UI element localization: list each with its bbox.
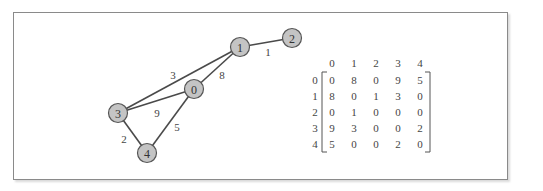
matrix-row-header: 2	[312, 106, 318, 118]
adjacency-matrix: 01234008095180130201000393002450020	[312, 57, 430, 152]
matrix-cell: 0	[373, 122, 379, 134]
matrix-cell: 0	[417, 90, 423, 102]
matrix-cell: 0	[373, 74, 379, 86]
matrix-row-header: 4	[312, 138, 318, 150]
matrix-cell: 0	[329, 106, 335, 118]
matrix-cell: 0	[373, 106, 379, 118]
matrix-cell: 5	[417, 74, 423, 86]
node-label: 3	[115, 107, 121, 121]
matrix-cell: 3	[395, 90, 401, 102]
matrix-column-header: 2	[373, 57, 379, 69]
edge-weight-label: 5	[174, 121, 180, 133]
matrix-column-header: 4	[417, 57, 423, 69]
matrix-cell: 0	[329, 74, 335, 86]
matrix-row-header: 1	[312, 90, 318, 102]
matrix-cell: 9	[395, 74, 401, 86]
edge-0-4	[147, 89, 194, 153]
matrix-cell: 0	[351, 138, 357, 150]
matrix-cell: 1	[373, 90, 379, 102]
matrix-cell: 0	[417, 106, 423, 118]
matrix-column-header: 0	[329, 57, 335, 69]
matrix-column-header: 1	[351, 57, 357, 69]
matrix-cell: 9	[329, 122, 335, 134]
edge-weight-label: 2	[121, 133, 127, 145]
matrix-cell: 0	[395, 122, 401, 134]
graph-nodes: 01234	[109, 29, 302, 163]
graph-node-4: 4	[138, 144, 157, 163]
graph-node-0: 0	[185, 80, 204, 99]
graph-node-1: 1	[231, 38, 250, 57]
matrix-cell: 5	[329, 138, 335, 150]
graph-node-2: 2	[283, 29, 302, 48]
edge-weight-label: 1	[265, 46, 271, 58]
graph-node-3: 3	[109, 104, 128, 123]
matrix-cell: 0	[373, 138, 379, 150]
node-label: 1	[237, 41, 243, 55]
matrix-cell: 1	[351, 106, 357, 118]
matrix-cell: 0	[417, 138, 423, 150]
matrix-cell: 8	[329, 90, 335, 102]
graph-and-matrix-canvas: 183952 01234 012340080951801302010003930…	[0, 0, 543, 191]
matrix-cell: 0	[351, 90, 357, 102]
matrix-cell: 8	[351, 74, 357, 86]
node-label: 4	[144, 147, 150, 161]
matrix-cell: 2	[395, 138, 401, 150]
matrix-cell: 3	[351, 122, 357, 134]
node-label: 0	[191, 83, 197, 97]
matrix-right-bracket	[425, 72, 430, 152]
matrix-row-header: 0	[312, 74, 318, 86]
matrix-column-header: 3	[395, 57, 401, 69]
matrix-cell: 2	[417, 122, 423, 134]
matrix-cell: 0	[395, 106, 401, 118]
matrix-left-bracket	[322, 72, 327, 152]
node-label: 2	[289, 32, 295, 46]
edge-weight-label: 3	[170, 69, 176, 81]
edge-weight-label: 9	[154, 107, 160, 119]
matrix-row-header: 3	[312, 122, 318, 134]
edge-weight-label: 8	[219, 69, 225, 81]
